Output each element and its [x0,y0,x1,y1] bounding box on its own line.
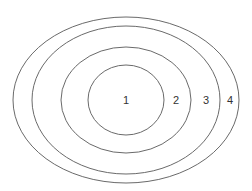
ring-label-2: 2 [173,94,179,106]
ring-label-1: 1 [123,94,129,106]
ring-label-4: 4 [227,94,233,106]
nested-ellipse-diagram: 1 2 3 4 [0,0,252,191]
ring-label-3: 3 [203,94,209,106]
